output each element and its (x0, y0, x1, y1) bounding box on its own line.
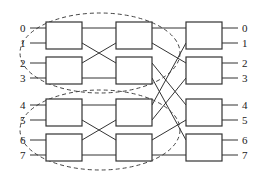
switch-box (186, 134, 222, 161)
input-label: 4 (20, 99, 26, 111)
input-label: 6 (20, 134, 26, 146)
output-label: 4 (242, 99, 248, 111)
output-wires (222, 28, 238, 155)
switch-box (116, 134, 152, 161)
input-label: 7 (20, 149, 26, 161)
input-label: 1 (20, 37, 26, 49)
input-label: 2 (20, 57, 26, 69)
switch-box (186, 22, 222, 49)
switch-box (116, 99, 152, 126)
input-label: 3 (20, 72, 26, 84)
output-label: 6 (242, 134, 248, 146)
input-wires (30, 28, 46, 155)
output-label: 1 (242, 37, 248, 49)
stage3-switches (186, 22, 222, 161)
output-label: 3 (242, 72, 248, 84)
switch-box (186, 57, 222, 84)
input-labels: 0 1 2 3 4 5 6 7 (20, 22, 26, 161)
output-labels: 0 1 2 3 4 5 6 7 (242, 22, 248, 161)
stage1-to-stage2-wires (82, 28, 116, 155)
switch-box (46, 134, 82, 161)
output-label: 2 (242, 57, 248, 69)
switch-box (116, 22, 152, 49)
output-label: 7 (242, 149, 248, 161)
output-label: 5 (242, 114, 248, 126)
switch-box (116, 57, 152, 84)
stage2-to-stage3-wires (152, 28, 186, 155)
interconnection-network-diagram: 0 1 2 3 4 5 6 7 0 1 2 3 4 5 6 7 (0, 0, 262, 184)
input-label: 5 (20, 114, 26, 126)
lower-group-ellipse (20, 90, 180, 170)
switch-box (186, 99, 222, 126)
switch-box (46, 99, 82, 126)
input-label: 0 (20, 22, 26, 34)
switch-box (46, 57, 82, 84)
output-label: 0 (242, 22, 248, 34)
switch-box (46, 22, 82, 49)
upper-group-ellipse (20, 13, 180, 93)
